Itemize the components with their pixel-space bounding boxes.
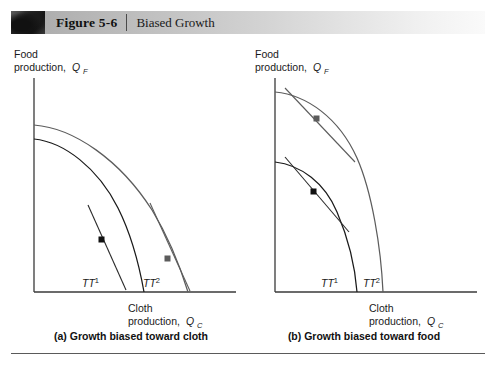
panel-a-y-axis-label-line1: Food	[14, 48, 38, 60]
svg-text:TT1: TT1	[321, 276, 338, 289]
panel-b-tangency-point-tt2	[314, 116, 320, 122]
figure-header-bar: Figure 5-6 Biased Growth	[11, 11, 485, 34]
svg-text:TT1: TT1	[82, 276, 99, 289]
panel-b-y-axis-symbol: Q	[313, 61, 321, 73]
panel-b-x-axis-label-line1: Cloth	[369, 302, 394, 314]
panel-a-tt1-superscript: 1	[95, 276, 99, 285]
panel-a-tt2-superscript: 2	[156, 276, 160, 285]
svg-text:production, Q: production, Q C	[128, 315, 203, 330]
panel-a-caption: (a) Growth biased toward cloth	[8, 330, 254, 342]
panel-b-tt2-superscript: 2	[376, 276, 380, 285]
panel-b-tangent-line-tt2	[285, 88, 355, 162]
svg-text:production, Q: production, Q F	[255, 61, 329, 76]
panel-a-x-axis-label-line2: production,	[128, 315, 180, 327]
panels-container: Food production, Q F	[0, 40, 493, 330]
panel-a-chart: Food production, Q F	[0, 40, 246, 330]
figure-container: Figure 5-6 Biased Growth Food production…	[0, 0, 493, 367]
panel-a-growth-biased-toward-cloth: Food production, Q F	[0, 40, 246, 330]
panel-b-x-axis-symbol: Q	[427, 315, 435, 327]
figure-bottom-rule	[11, 353, 485, 354]
panel-b-x-axis-subscript: C	[438, 321, 444, 330]
panel-b-x-axis-label-line2: production,	[369, 315, 421, 327]
svg-text:TT2: TT2	[143, 276, 160, 289]
panel-b-tangency-point-tt1	[311, 189, 317, 195]
captions-container: (a) Growth biased toward cloth (b) Growt…	[0, 330, 493, 350]
panel-a-curve-tt1	[34, 139, 144, 292]
panel-a-y-axis-label-line2: production,	[14, 61, 66, 73]
panel-a-tangency-point-tt2	[165, 256, 171, 262]
panel-b-y-axis-label-line1: Food	[255, 48, 279, 60]
figure-number: Figure 5-6	[45, 11, 126, 34]
panel-a-y-axis-symbol: Q	[72, 61, 80, 73]
panel-b-growth-biased-toward-food: Food production, Q F	[241, 40, 487, 330]
svg-text:production, Q: production, Q F	[14, 61, 88, 76]
panel-b-y-axis-label-line2: production,	[255, 61, 307, 73]
figure-title: Biased Growth	[127, 11, 214, 34]
panel-a-x-axis-symbol: Q	[186, 315, 194, 327]
panel-b-y-axis-subscript: F	[324, 67, 329, 76]
panel-b-tt1-superscript: 1	[334, 276, 338, 285]
panel-a-x-axis-subscript: C	[197, 321, 203, 330]
panel-a-tangency-point-tt1	[99, 237, 105, 243]
svg-text:TT2: TT2	[363, 276, 380, 289]
panel-b-curve-tt2	[275, 92, 383, 292]
panel-a-curve-tt2	[34, 125, 188, 292]
panel-a-x-axis-label-line1: Cloth	[128, 302, 153, 314]
svg-text:production, Q: production, Q C	[369, 315, 444, 330]
panel-b-chart: Food production, Q F	[241, 40, 487, 330]
panel-b-tangent-line-tt1	[285, 157, 349, 232]
panel-a-y-axis-subscript: F	[83, 67, 88, 76]
figure-thumbnail-image	[11, 11, 45, 34]
panel-b-caption: (b) Growth biased toward food	[241, 330, 487, 342]
